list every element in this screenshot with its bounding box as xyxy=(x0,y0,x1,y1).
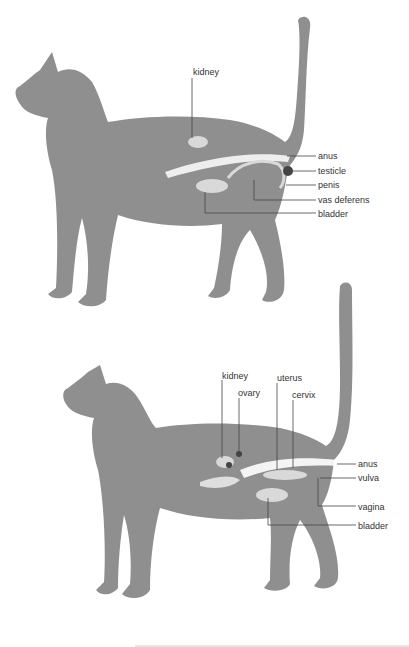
label-male-anus: anus xyxy=(318,151,338,161)
male-bladder-organ xyxy=(196,179,228,193)
label-female-cervix: cervix xyxy=(292,390,316,400)
female-bladder-organ xyxy=(256,488,288,502)
label-female-vulva: vulva xyxy=(358,473,379,483)
male-kidney-organ xyxy=(188,136,208,148)
label-female-bladder: bladder xyxy=(358,521,388,531)
label-female-ovary: ovary xyxy=(238,388,261,398)
female-cat-diagram: kidney ovary uterus cervix anus vulva va… xyxy=(63,283,388,599)
female-uterus-organ xyxy=(263,470,307,480)
label-male-penis: penis xyxy=(318,180,340,190)
label-female-kidney: kidney xyxy=(222,371,249,381)
label-male-bladder: bladder xyxy=(318,209,348,219)
male-cat-diagram: kidney anus testicle penis vas deferens … xyxy=(16,17,371,307)
label-female-vagina: vagina xyxy=(358,502,385,512)
female-cat-silhouette xyxy=(63,283,352,599)
male-testicle-organ xyxy=(283,166,293,176)
label-male-kidney: kidney xyxy=(193,67,220,77)
label-male-vas-deferens: vas deferens xyxy=(318,195,370,205)
diagram-canvas: kidney anus testicle penis vas deferens … xyxy=(0,0,409,647)
label-male-testicle: testicle xyxy=(318,166,346,176)
label-female-uterus: uterus xyxy=(277,373,303,383)
female-ovary-organ xyxy=(236,451,242,457)
female-ovary-organ-2 xyxy=(226,462,232,468)
label-female-anus: anus xyxy=(358,459,378,469)
